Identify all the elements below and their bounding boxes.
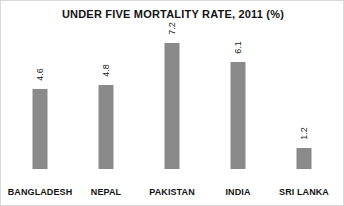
bar-group: 1.2 (271, 29, 337, 169)
category-label: NEPAL (91, 187, 121, 197)
bar-value-label: 6.1 (234, 41, 243, 54)
bar (99, 85, 114, 169)
category-label: SRI LANKA (279, 187, 329, 197)
category-label: BANGLADESH (8, 187, 73, 197)
bar (33, 89, 48, 170)
bar-value-label: 4.8 (102, 64, 111, 77)
category-label: INDIA (226, 187, 251, 197)
bar-group: 4.8 (73, 29, 139, 169)
bar-value-label: 4.6 (36, 68, 45, 81)
plot-area: 4.64.87.26.11.2 (7, 29, 337, 169)
bar-group: 7.2 (139, 29, 205, 169)
category-axis: BANGLADESHNEPALPAKISTANINDIASRI LANKA (7, 187, 337, 203)
bar (297, 148, 312, 169)
chart-figure: UNDER FIVE MORTALITY RATE, 2011 (%) 4.64… (0, 0, 344, 206)
category-label: PAKISTAN (149, 187, 194, 197)
bar-value-label: 1.2 (300, 127, 309, 140)
bar-group: 4.6 (7, 29, 73, 169)
chart-title: UNDER FIVE MORTALITY RATE, 2011 (%) (1, 8, 344, 20)
bar (231, 62, 246, 169)
bar (165, 43, 180, 169)
bar-group: 6.1 (205, 29, 271, 169)
bar-value-label: 7.2 (168, 22, 177, 35)
